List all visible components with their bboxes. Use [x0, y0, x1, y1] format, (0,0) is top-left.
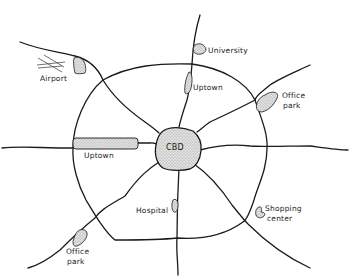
north-radial: [179, 15, 200, 127]
uptown-west-label: Uptown: [84, 151, 114, 160]
east-radial: [200, 145, 348, 150]
cbd-label: CBD: [166, 143, 184, 152]
office-park-ne-label-line1: Office: [282, 91, 305, 100]
hospital-area: [172, 199, 178, 212]
map-drawing: [0, 0, 351, 277]
shopping-center-area: [256, 207, 265, 218]
uptown-north-label: Uptown: [193, 83, 223, 92]
shopping-center-label-line2: center: [267, 214, 292, 223]
airport-label: Airport: [40, 74, 67, 83]
office-park-sw-label-line1: Office: [66, 247, 89, 256]
southwest-radial: [28, 162, 159, 268]
southeast-radial: [194, 164, 310, 268]
airport-runway-icon: [37, 55, 65, 72]
office-park-ne-label-line2: park: [283, 101, 301, 110]
office-park-sw-area: [73, 230, 87, 247]
office-park-ne-area: [256, 92, 277, 112]
urban-structure-diagram: CBD University Uptown Uptown Airport Off…: [0, 0, 351, 277]
shopping-center-label-line1: Shopping: [265, 204, 302, 213]
west-radial: [2, 147, 73, 148]
university-area: [193, 44, 206, 54]
office-park-sw-label-line2: park: [67, 257, 85, 266]
south-radial: [177, 168, 179, 275]
university-label: University: [208, 46, 248, 55]
uptown-west-area: [73, 138, 138, 149]
northwest-radial: [20, 42, 159, 133]
hospital-label: Hospital: [136, 206, 168, 215]
uptown-north-area: [185, 72, 192, 94]
